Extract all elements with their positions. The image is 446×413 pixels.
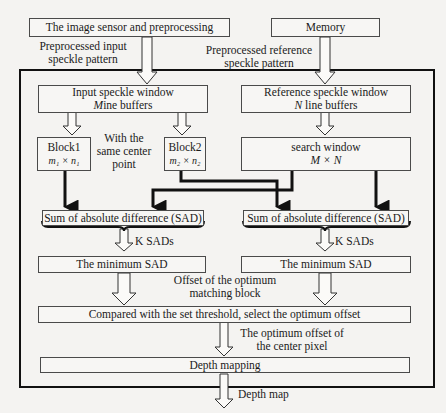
center-offset-line-1: The optimum offset of: [232, 327, 352, 340]
offset-label-line-2: matching block: [160, 287, 290, 300]
preprocessed-input-label: Preprocessed input speckle pattern: [28, 40, 138, 66]
arrow-input-to-block1: [63, 112, 81, 135]
left-sad-label: Sum of absolute difference (SAD): [44, 212, 202, 225]
right-min-sad-box: The minimum SAD: [241, 256, 411, 273]
center-note-line-3: point: [93, 158, 155, 171]
left-min-sad-label: The minimum SAD: [76, 258, 167, 271]
right-min-sad-label: The minimum SAD: [280, 258, 371, 271]
center-note-line-2: same center: [93, 145, 155, 158]
depth-mapping-box: Depth mapping: [40, 357, 410, 373]
right-sad-box: Sum of absolute difference (SAD): [243, 210, 409, 226]
memory-label: Memory: [306, 21, 346, 34]
ref-window-line-2-rest: line buffers: [302, 99, 357, 111]
arrow-search-to-left-sad: [153, 171, 292, 207]
arrow-input-to-block2: [173, 112, 191, 135]
block2-box: Block2 m₂ × n₂: [164, 137, 206, 171]
offset-label-line-1: Offset of the optimum: [160, 274, 290, 287]
right-ksads-label: K SADs: [335, 235, 374, 248]
arrow-ref-to-search: [316, 112, 334, 135]
arrow-compare-to-depth: [215, 322, 233, 356]
search-window-dims: M × N: [311, 154, 342, 167]
arrow-left-to-compare: [112, 273, 136, 305]
depth-map-label: Depth map: [238, 388, 289, 401]
block2-title: Block2: [168, 141, 201, 154]
arrow-right-ksads: [316, 229, 334, 251]
input-window-line-2-rest: ine buffers: [103, 99, 152, 111]
left-min-sad-box: The minimum SAD: [38, 256, 206, 273]
block2-dims: m₂ × n₂: [170, 154, 201, 167]
compare-threshold-label: Compared with the set threshold, select …: [89, 308, 361, 321]
left-sad-box: Sum of absolute difference (SAD): [42, 210, 204, 226]
depth-mapping-label: Depth mapping: [189, 359, 260, 372]
same-center-note: With the same center point: [93, 132, 155, 171]
input-window-line-1: Input speckle window: [72, 86, 174, 99]
ref-label-line-1: Preprocessed reference: [198, 44, 320, 57]
var-n: N: [294, 99, 302, 111]
center-offset-label: The optimum offset of the center pixel: [232, 327, 352, 353]
input-label-line-1: Preprocessed input: [28, 40, 138, 53]
arrow-left-ksads: [115, 229, 133, 251]
compare-threshold-box: Compared with the set threshold, select …: [38, 306, 411, 323]
left-ksads-label: K SADs: [135, 235, 174, 248]
search-window-box: search window M × N: [241, 137, 411, 171]
var-m: M: [94, 99, 104, 111]
ref-window-line-2: N line buffers: [294, 99, 357, 112]
image-sensor-box: The image sensor and preprocessing: [29, 18, 230, 37]
ref-speckle-window-box: Reference speckle window N line buffers: [241, 85, 411, 113]
search-window-line-1: search window: [291, 141, 360, 154]
input-label-line-2: speckle pattern: [28, 53, 138, 66]
block1-dims: m₁ × n₁: [49, 154, 80, 167]
arrow-sensor-to-input: [137, 37, 157, 84]
block1-title: Block1: [47, 141, 80, 154]
memory-box: Memory: [271, 18, 380, 37]
right-sad-label: Sum of absolute difference (SAD): [247, 212, 405, 225]
flowchart: The image sensor and preprocessing Memor…: [0, 0, 446, 413]
image-sensor-label: The image sensor and preprocessing: [46, 21, 213, 34]
block1-box: Block1 m₁ × n₁: [37, 137, 91, 171]
arrow-right-to-compare: [313, 273, 337, 305]
center-note-line-1: With the: [93, 132, 155, 145]
input-speckle-window-box: Input speckle window Mine buffers: [38, 85, 208, 113]
ref-window-line-1: Reference speckle window: [264, 86, 388, 99]
offset-label: Offset of the optimum matching block: [160, 274, 290, 300]
arrow-depth-out: [215, 374, 233, 408]
solid-arrows: [65, 170, 376, 207]
center-offset-line-2: the center pixel: [232, 340, 352, 353]
preprocessed-ref-label: Preprocessed reference speckle pattern: [198, 44, 320, 70]
ref-label-line-2: speckle pattern: [198, 57, 320, 70]
input-window-line-2: Mine buffers: [94, 99, 153, 112]
